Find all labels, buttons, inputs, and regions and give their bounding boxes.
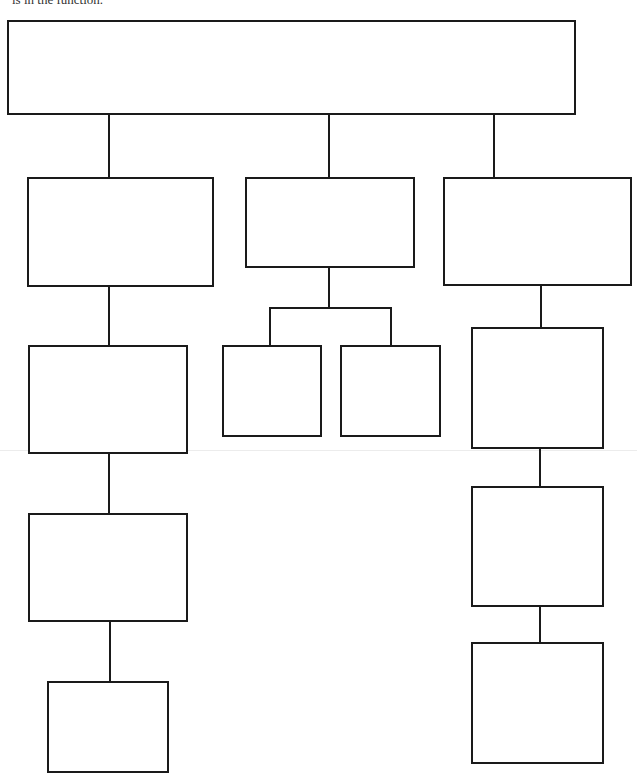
clipped-caption-text: is in the function. xyxy=(12,0,103,6)
connector-line xyxy=(390,307,392,346)
box-left-3 xyxy=(28,513,188,622)
box-right-1 xyxy=(443,177,632,286)
box-left-1 xyxy=(27,177,214,287)
box-root xyxy=(7,20,576,115)
connector-line xyxy=(108,114,110,178)
box-right-3 xyxy=(471,486,604,607)
connector-line xyxy=(108,286,110,346)
connector-line xyxy=(493,114,495,178)
connector-line xyxy=(540,285,542,328)
box-middle-sub-left xyxy=(222,345,322,437)
connector-line xyxy=(539,606,541,643)
connector-line xyxy=(539,448,541,487)
box-right-2 xyxy=(471,327,604,449)
connector-line xyxy=(328,114,330,178)
box-middle-sub-right xyxy=(340,345,441,437)
box-right-4 xyxy=(471,642,604,764)
connector-line xyxy=(269,307,392,309)
box-left-4 xyxy=(47,681,169,773)
connector-line xyxy=(269,307,271,346)
connector-line xyxy=(108,453,110,514)
box-left-2 xyxy=(28,345,188,454)
connector-line xyxy=(328,267,330,309)
connector-line xyxy=(109,621,111,682)
box-middle-1 xyxy=(245,177,415,268)
